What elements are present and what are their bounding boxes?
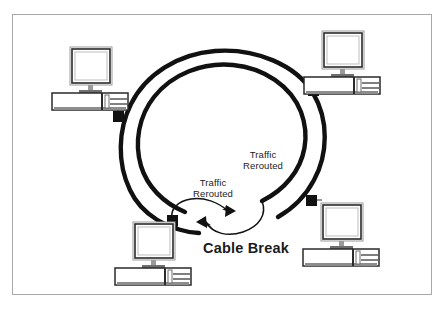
traffic-rerouted-label-right: Traffic Rerouted [232, 150, 294, 171]
ring-arrowhead-right [225, 205, 236, 217]
desktop-case-icon [303, 249, 379, 266]
connector-top-left[interactable] [113, 111, 124, 122]
ring-arrowhead-left [196, 216, 207, 228]
figure-root: Traffic Rerouted Traffic Rerouted Cable … [0, 0, 446, 315]
cable-break-label: Cable Break [186, 240, 306, 256]
monitor-icon [322, 31, 364, 77]
traffic-rerouted-label-left: Traffic Rerouted [182, 178, 244, 199]
monitor-icon [321, 203, 363, 249]
traffic-reroute-curve-left [206, 201, 264, 234]
monitor-icon [70, 47, 112, 93]
monitor-icon [133, 222, 175, 268]
workstation-top-right[interactable] [304, 31, 380, 94]
break-arrowheads [196, 205, 236, 228]
connector-bottom-right[interactable] [306, 195, 317, 206]
desktop-case-icon [52, 93, 128, 110]
ring-diagram [0, 0, 446, 315]
desktop-case-icon [115, 268, 191, 285]
ring-outer-path [121, 51, 325, 233]
desktop-case-icon [304, 77, 380, 94]
workstation-top-left[interactable] [52, 47, 128, 110]
workstation-bottom-right[interactable] [303, 203, 379, 266]
